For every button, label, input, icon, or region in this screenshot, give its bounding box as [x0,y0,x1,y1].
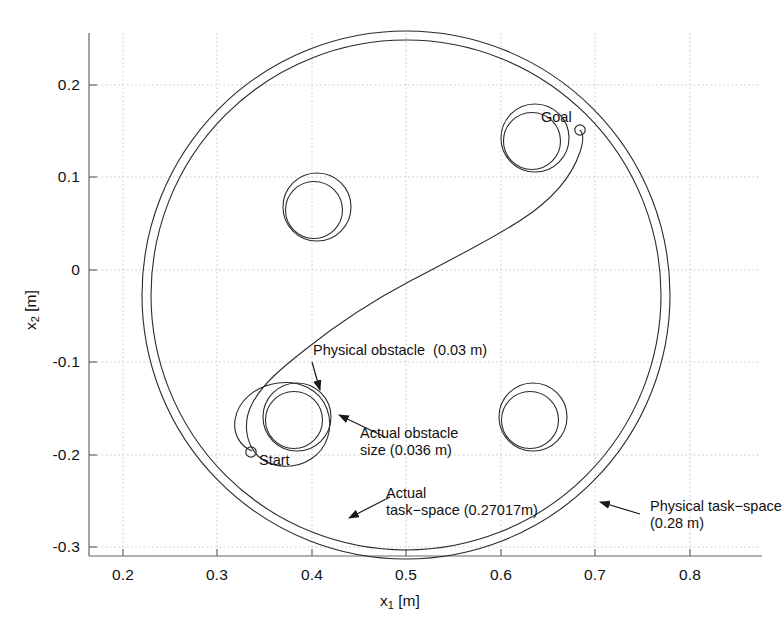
ytick-label: -0.3 [30,538,80,556]
annotation-actual-task-space-line2: task−space (0.27017m) [386,502,538,518]
x-axis-title-var: x [380,592,388,609]
ytick-label: 0.1 [38,168,80,186]
annotation-actual-task-space-line1: Actual [386,485,426,501]
xtick-label: 0.6 [471,566,531,584]
obstacle-bottom-left [263,383,331,451]
xtick-label: 0.3 [187,566,247,584]
obstacle-bottom-right [499,383,567,451]
xtick-label: 0.2 [93,566,153,584]
annotation-actual-obstacle: Actual obstaclesize (0.036 m) [360,425,458,459]
ytick-label: -0.1 [30,353,80,371]
annotation-actual-task-space: Actualtask−space (0.27017m) [386,485,538,519]
xtick-label: 0.7 [565,566,625,584]
y-axis-title-subscript: 2 [29,316,41,322]
obstacle-physical-circle [266,392,323,449]
obstacle-actual-circle [499,383,567,451]
ytick-label: -0.2 [30,446,80,464]
xtick-label: 0.4 [282,566,342,584]
trajectory-path [235,130,583,466]
obstacle-actual-circle [263,383,331,451]
annotation-physical-obstacle: Physical obstacle (0.03 m) [313,342,487,359]
x-axis-title-unit: [m] [394,592,420,609]
start-label: Start [259,452,290,468]
physical-obstacle-arrow-icon [312,362,320,390]
ytick-label: 0 [38,261,80,279]
physical-taskspace-arrow-icon [600,502,640,514]
ytick-label: 0.2 [38,76,80,94]
y-axis-title-unit: [m] [22,290,39,316]
annotation-physical-task-space: Physical task−space(0.28 m) [650,498,782,532]
obstacle-actual-circle [283,173,351,241]
grid-lines [89,33,760,547]
x-axis-title: x1 [m] [380,592,420,611]
obstacle-physical-circle [286,182,343,239]
annotation-physical-task-space-line2: (0.28 m) [650,515,704,531]
goal-label: Goal [541,109,572,125]
obstacle-top-left [283,173,351,241]
annotation-actual-obstacle-line1: Actual obstacle [360,425,458,441]
xtick-label: 0.5 [376,566,436,584]
annotation-actual-obstacle-line2: size (0.036 m) [360,442,452,458]
xtick-label: 0.8 [660,566,720,584]
y-axis-title-var: x [22,322,39,330]
y-axis-title: x2 [m] [22,290,41,330]
actual-taskspace-arrow-icon [349,497,390,518]
annotation-physical-task-space-line1: Physical task−space [650,498,782,514]
obstacle-physical-circle [502,392,559,449]
